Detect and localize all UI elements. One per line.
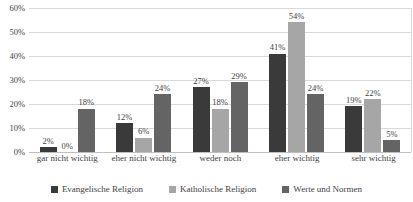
- bar-group-bars: 41%54%24%: [258, 8, 334, 152]
- bar[interactable]: [231, 82, 248, 152]
- x-axis: gar nicht wichtigeher nicht wichtigweder…: [29, 154, 412, 174]
- bar-slot: 12%: [116, 8, 133, 152]
- bar[interactable]: [364, 99, 381, 152]
- bar-slot: 19%: [345, 8, 362, 152]
- bar-group-bars: 2%0%18%: [29, 8, 105, 152]
- bar[interactable]: [345, 106, 362, 152]
- bar[interactable]: [116, 123, 133, 152]
- bar-value-label: 19%: [346, 96, 362, 105]
- bar-value-label: 0%: [62, 142, 73, 151]
- bar-value-label: 6%: [138, 127, 149, 136]
- bar[interactable]: [78, 109, 95, 152]
- bar[interactable]: [307, 94, 324, 152]
- bar-slot: 24%: [307, 8, 324, 152]
- legend-item[interactable]: Evangelische Religion: [51, 185, 143, 194]
- x-axis-category-label: weder noch: [182, 154, 259, 174]
- bar[interactable]: [269, 54, 286, 152]
- x-axis-category-label: eher nicht wichtig: [106, 154, 183, 174]
- bar-slot: 24%: [154, 8, 171, 152]
- bar-value-label: 24%: [308, 84, 324, 93]
- legend-swatch-icon: [51, 186, 58, 193]
- y-axis-tick-label: 0%: [14, 148, 25, 157]
- bar-groups: 2%0%18%12%6%24%27%18%29%41%54%24%19%22%5…: [29, 8, 411, 152]
- bar[interactable]: [154, 94, 171, 152]
- bar-group: 41%54%24%: [258, 8, 334, 152]
- plot-wrapper: 0%10%20%30%40%50%60% 2%0%18%12%6%24%27%1…: [0, 0, 413, 158]
- bar[interactable]: [193, 87, 210, 152]
- bar-group-bars: 27%18%29%: [182, 8, 258, 152]
- y-axis: 0%10%20%30%40%50%60%: [0, 0, 27, 158]
- bar-value-label: 12%: [117, 113, 133, 122]
- x-axis-category-label: gar nicht wichtig: [29, 154, 106, 174]
- bar[interactable]: [212, 109, 229, 152]
- bar-value-label: 24%: [155, 84, 171, 93]
- bar-slot: 27%: [193, 8, 210, 152]
- bar-group: 12%6%24%: [105, 8, 181, 152]
- bar-value-label: 29%: [231, 72, 247, 81]
- bar[interactable]: [135, 138, 152, 152]
- bar-value-label: 18%: [78, 98, 94, 107]
- bar-value-label: 2%: [43, 137, 54, 146]
- bar-chart: 0%10%20%30%40%50%60% 2%0%18%12%6%24%27%1…: [0, 0, 413, 202]
- bar-group: 19%22%5%: [335, 8, 411, 152]
- bar-group-bars: 12%6%24%: [105, 8, 181, 152]
- legend-label: Evangelische Religion: [62, 185, 143, 194]
- bar-value-label: 22%: [365, 89, 381, 98]
- bar[interactable]: [40, 147, 57, 152]
- bar-slot: 2%: [40, 8, 57, 152]
- bar[interactable]: [288, 22, 305, 152]
- plot-area: 2%0%18%12%6%24%27%18%29%41%54%24%19%22%5…: [29, 8, 412, 152]
- x-axis-category-label: eher wichtig: [259, 154, 336, 174]
- y-axis-tick-label: 20%: [9, 100, 25, 109]
- y-axis-tick-label: 60%: [9, 4, 25, 13]
- bar-slot: 0%: [59, 8, 76, 152]
- bar-slot: 22%: [364, 8, 381, 152]
- legend-item[interactable]: Werte und Normen: [282, 185, 362, 194]
- y-axis-tick-label: 50%: [9, 28, 25, 37]
- chart-legend: Evangelische ReligionKatholische Religio…: [0, 181, 413, 197]
- bar-group-bars: 19%22%5%: [335, 8, 411, 152]
- legend-label: Katholische Religion: [180, 185, 256, 194]
- bar-slot: 41%: [269, 8, 286, 152]
- bar-value-label: 5%: [386, 130, 397, 139]
- bar-group: 27%18%29%: [182, 8, 258, 152]
- bar[interactable]: [383, 140, 400, 152]
- bar-value-label: 18%: [212, 98, 228, 107]
- legend-item[interactable]: Katholische Religion: [169, 185, 256, 194]
- bar-slot: 54%: [288, 8, 305, 152]
- y-axis-tick-label: 10%: [9, 124, 25, 133]
- bar-group: 2%0%18%: [29, 8, 105, 152]
- legend-label: Werte und Normen: [293, 185, 362, 194]
- legend-swatch-icon: [169, 186, 176, 193]
- bar-slot: 29%: [231, 8, 248, 152]
- y-axis-tick-label: 30%: [9, 76, 25, 85]
- legend-swatch-icon: [282, 186, 289, 193]
- y-axis-tick-label: 40%: [9, 52, 25, 61]
- bar-slot: 6%: [135, 8, 152, 152]
- bar-slot: 18%: [212, 8, 229, 152]
- bar-value-label: 41%: [270, 43, 286, 52]
- bar-value-label: 27%: [193, 77, 209, 86]
- bar-slot: 18%: [78, 8, 95, 152]
- bar-slot: 5%: [383, 8, 400, 152]
- x-axis-category-label: sehr wichtig: [335, 154, 412, 174]
- bar-value-label: 54%: [289, 12, 305, 21]
